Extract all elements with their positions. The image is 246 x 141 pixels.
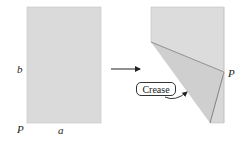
unfolded-sheet xyxy=(27,7,101,123)
diagram-canvas xyxy=(0,0,246,141)
label-p-left: P xyxy=(17,124,24,135)
crease-label: Crease xyxy=(136,82,176,96)
label-b: b xyxy=(17,64,23,75)
folding-diagram: b a P P Crease xyxy=(0,0,246,141)
label-p-right: P xyxy=(228,68,235,79)
label-a: a xyxy=(58,125,64,136)
